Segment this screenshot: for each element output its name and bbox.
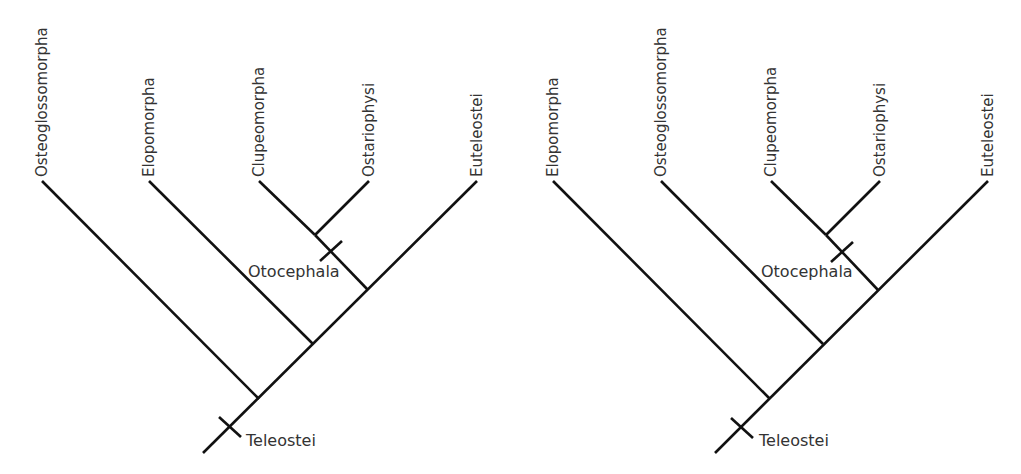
clade-label-otocephala: Otocephala [761, 262, 853, 281]
cladogram-right: ElopomorphaOsteoglossomorphaClupeomorpha… [544, 27, 997, 453]
taxon-label-ostariophysi: Ostariophysi [360, 83, 378, 177]
clade-label-teleostei: Teleostei [245, 431, 316, 450]
branch-ostariophysi [315, 181, 369, 235]
branch-osteoglossomorpha [42, 181, 259, 399]
branch-clupeomorpha [259, 181, 315, 235]
taxon-label-clupeomorpha: Clupeomorpha [762, 67, 780, 177]
taxon-label-elopomorpha: Elopomorpha [544, 77, 562, 177]
taxon-label-elopomorpha: Elopomorpha [140, 77, 158, 177]
clade-label-otocephala: Otocephala [248, 262, 340, 281]
branch-euteleostei [203, 181, 477, 453]
branch-euteleostei [715, 181, 988, 453]
taxon-label-osteoglossomorpha: Osteoglossomorpha [33, 27, 51, 177]
taxon-label-ostariophysi: Ostariophysi [871, 83, 889, 177]
cladogram-left: OsteoglossomorphaElopomorphaClupeomorpha… [33, 27, 486, 453]
branch-clupeomorpha [771, 181, 826, 235]
taxon-label-clupeomorpha: Clupeomorpha [250, 67, 268, 177]
taxon-label-euteleostei: Euteleostei [979, 93, 997, 177]
branch-elopomorpha [553, 181, 770, 399]
phylogeny-diagram: OsteoglossomorphaElopomorphaClupeomorpha… [0, 0, 1021, 474]
clade-label-teleostei: Teleostei [758, 431, 829, 450]
taxon-label-osteoglossomorpha: Osteoglossomorpha [652, 27, 670, 177]
branch-ostariophysi [826, 181, 880, 235]
taxon-label-euteleostei: Euteleostei [468, 93, 486, 177]
